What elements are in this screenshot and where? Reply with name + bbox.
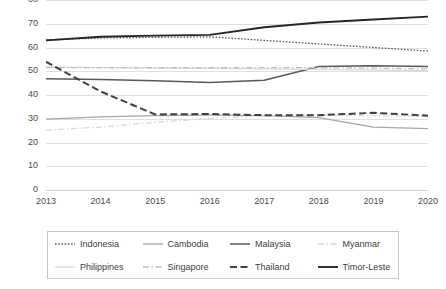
x-axis-tick: 2016 — [200, 196, 220, 206]
line-chart: 80706050403020100 2013201420152016201720… — [0, 0, 446, 289]
legend-label-cambodia: Cambodia — [168, 239, 209, 249]
x-axis-tick: 2015 — [145, 196, 165, 206]
legend-item-thailand[interactable]: Thailand — [223, 262, 311, 272]
legend-swatch-thailand-icon — [229, 262, 251, 272]
legend-item-singapore[interactable]: Singapore — [136, 262, 224, 272]
y-axis-tick: 70 — [28, 19, 38, 28]
legend-item-cambodia[interactable]: Cambodia — [136, 239, 224, 249]
legend-swatch-myanmar-icon — [317, 239, 339, 249]
legend-swatch-philippines-icon — [54, 262, 76, 272]
x-axis-tick: 2020 — [418, 196, 438, 206]
y-axis-tick: 50 — [28, 66, 38, 75]
x-axis-tick: 2017 — [254, 196, 274, 206]
y-axis-tick: 10 — [28, 161, 38, 170]
y-axis-tick: 40 — [28, 90, 38, 99]
y-axis-tick: 0 — [33, 185, 38, 194]
x-axis-tick: 2013 — [36, 196, 56, 206]
x-axis-tick: 2019 — [363, 196, 383, 206]
legend-label-malaysia: Malaysia — [255, 239, 291, 249]
legend-swatch-singapore-icon — [142, 262, 164, 272]
legend-label-thailand: Thailand — [255, 262, 290, 272]
y-axis-tick: 30 — [28, 114, 38, 123]
y-axis-tick: 60 — [28, 43, 38, 52]
legend-item-indonesia[interactable]: Indonesia — [48, 239, 136, 249]
y-axis-tick: 20 — [28, 138, 38, 147]
legend-swatch-timor-leste-icon — [317, 262, 339, 272]
legend-label-timor-leste: Timor-Leste — [343, 262, 391, 272]
y-axis-tick: 80 — [28, 0, 38, 4]
x-axis: 20132014201520162017201820192020 — [46, 196, 428, 216]
legend-item-philippines[interactable]: Philippines — [48, 262, 136, 272]
legend-label-philippines: Philippines — [80, 262, 124, 272]
legend-swatch-cambodia-icon — [142, 239, 164, 249]
legend: IndonesiaCambodiaMalaysiaMyanmarPhilippi… — [47, 231, 399, 279]
gridline — [46, 190, 428, 191]
x-axis-tick: 2018 — [309, 196, 329, 206]
y-axis: 80706050403020100 — [0, 0, 44, 190]
legend-swatch-malaysia-icon — [229, 239, 251, 249]
x-axis-tick: 2014 — [91, 196, 111, 206]
plot-area: 80706050403020100 2013201420152016201720… — [0, 0, 446, 225]
legend-label-myanmar: Myanmar — [343, 239, 381, 249]
legend-item-malaysia[interactable]: Malaysia — [223, 239, 311, 249]
series-lines — [46, 0, 428, 190]
legend-item-myanmar[interactable]: Myanmar — [311, 239, 399, 249]
legend-label-indonesia: Indonesia — [80, 239, 119, 249]
legend-label-singapore: Singapore — [168, 262, 209, 272]
legend-grid: IndonesiaCambodiaMalaysiaMyanmarPhilippi… — [48, 232, 398, 278]
series-line-timor-leste — [46, 17, 428, 41]
legend-swatch-indonesia-icon — [54, 239, 76, 249]
series-line-indonesia — [46, 37, 428, 51]
legend-item-timor-leste[interactable]: Timor-Leste — [311, 262, 399, 272]
